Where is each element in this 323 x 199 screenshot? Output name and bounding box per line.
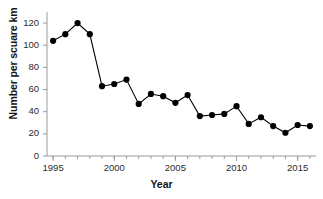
data-series-line [53, 23, 310, 133]
data-point-marker [295, 122, 301, 128]
x-axis-tick-label: 2005 [155, 162, 195, 173]
data-point-marker [74, 20, 80, 26]
y-axis-ticks [43, 23, 47, 156]
data-point-marker [99, 83, 105, 89]
x-axis-tick-label: 2000 [94, 162, 134, 173]
y-axis-tick-label: 80 [5, 61, 39, 72]
data-point-marker [62, 31, 68, 37]
data-point-marker [160, 93, 166, 99]
data-point-marker [50, 38, 56, 44]
x-axis-title: Year [0, 178, 323, 190]
x-axis-tick-label: 2015 [278, 162, 318, 173]
y-axis-tick-label: 100 [5, 39, 39, 50]
data-point-marker [123, 76, 129, 82]
data-point-marker [246, 121, 252, 127]
data-point-marker [87, 31, 93, 37]
x-axis-tick-label: 1995 [33, 162, 73, 173]
x-axis-tick-label: 2010 [217, 162, 257, 173]
data-point-marker [148, 91, 154, 97]
data-point-marker [209, 112, 215, 118]
data-point-marker [282, 130, 288, 136]
data-point-marker [185, 92, 191, 98]
y-axis-tick-label: 60 [5, 83, 39, 94]
data-series-markers [50, 20, 313, 136]
data-point-marker [136, 101, 142, 107]
data-point-marker [307, 123, 313, 129]
y-axis-tick-label: 20 [5, 127, 39, 138]
data-point-marker [197, 113, 203, 119]
y-axis-tick-label: 0 [5, 150, 39, 161]
data-point-marker [270, 123, 276, 129]
data-point-marker [221, 111, 227, 117]
data-point-marker [233, 103, 239, 109]
y-axis-tick-label: 120 [5, 17, 39, 28]
data-point-marker [111, 81, 117, 87]
chart-container: 020406080100120 19952000200520102015 Num… [0, 0, 323, 199]
y-axis-tick-label: 40 [5, 105, 39, 116]
data-point-marker [172, 100, 178, 106]
data-point-marker [258, 114, 264, 120]
